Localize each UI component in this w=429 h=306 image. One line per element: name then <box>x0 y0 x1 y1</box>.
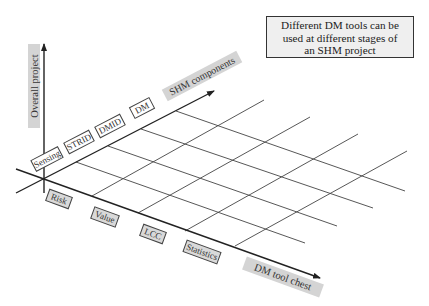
component-label-sensing: Sensing <box>31 147 63 171</box>
component-label-strid: STRID <box>64 130 94 154</box>
vertical-axis-label: Overall project <box>28 44 40 128</box>
axes <box>16 44 320 278</box>
svg-text:DM tool chest: DM tool chest <box>253 262 313 293</box>
dm-axis-label: DM tool chest <box>242 256 324 297</box>
svg-text:Statistics: Statistics <box>185 242 219 263</box>
grid-line <box>235 151 407 246</box>
tool-label-statistics: Statistics <box>183 240 221 264</box>
component-label-dmid: DMID <box>95 114 125 138</box>
tool-label-lcc: LCC <box>140 224 167 243</box>
grid-lines-ascending <box>92 100 407 246</box>
shm-component-labels: Sensing STRID DMID DM <box>31 98 155 172</box>
component-label-dm: DM <box>129 98 154 119</box>
grid-line <box>141 129 373 208</box>
diagram-canvas: Overall project SHM components DM tool c… <box>0 0 429 306</box>
shm-axis-label: SHM components <box>162 51 243 101</box>
grid-line <box>138 117 310 213</box>
tool-label-risk: Risk <box>46 189 73 208</box>
grid-line <box>176 111 405 191</box>
shm-axis <box>16 91 214 193</box>
grid-line <box>92 100 264 196</box>
svg-text:Sensing: Sensing <box>32 148 62 170</box>
dm-axis <box>16 169 320 278</box>
dm-tool-labels: Risk Value LCC Statistics <box>46 189 221 264</box>
svg-text:Overall project: Overall project <box>29 54 40 117</box>
tool-label-value: Value <box>91 207 120 227</box>
svg-text:STRID: STRID <box>65 131 93 152</box>
grid-line <box>185 134 358 231</box>
svg-text:SHM components: SHM components <box>167 54 236 97</box>
